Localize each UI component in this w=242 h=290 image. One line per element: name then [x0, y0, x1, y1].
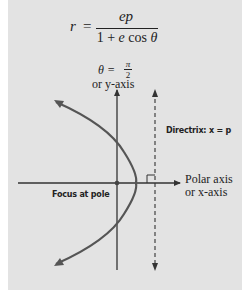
- directrix-arrow-bottom-icon: [152, 263, 158, 271]
- right-angle-mark: [147, 175, 155, 183]
- focus-point: [115, 181, 120, 186]
- directrix-arrow-top-icon: [152, 89, 158, 97]
- parabola-diagram: [0, 0, 242, 290]
